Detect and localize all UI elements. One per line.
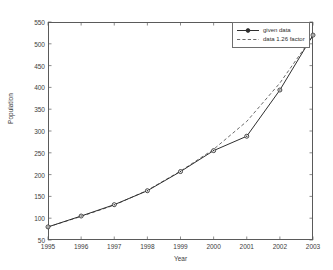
x-tick-label: 1997 bbox=[107, 243, 121, 250]
x-tick-label: 2000 bbox=[206, 243, 220, 250]
legend-label-factor: data 1.26 factor bbox=[263, 35, 305, 44]
x-tick-label: 2002 bbox=[273, 243, 287, 250]
y-tick-label: 400 bbox=[34, 84, 45, 91]
legend-label-given-data: given data bbox=[263, 26, 291, 35]
x-tick-label: 2003 bbox=[306, 243, 320, 250]
x-axis-tick-labels: 199519961997199819992000200120022003 bbox=[48, 243, 313, 255]
x-tick-label: 1999 bbox=[173, 243, 187, 250]
x-axis-title: Year bbox=[48, 255, 313, 262]
y-axis-title: Population bbox=[7, 64, 14, 154]
x-tick-label: 2001 bbox=[240, 243, 254, 250]
y-tick-label: 450 bbox=[34, 62, 45, 69]
x-tick-label: 1996 bbox=[74, 243, 88, 250]
legend-entry-factor: data 1.26 factor bbox=[236, 35, 305, 44]
y-tick-label: 300 bbox=[34, 128, 45, 135]
x-tick-label: 1995 bbox=[41, 243, 55, 250]
y-tick-label: 150 bbox=[34, 193, 45, 200]
y-tick-label: 500 bbox=[34, 40, 45, 47]
y-axis-tick-labels: 50100150200250300350400450500550 bbox=[18, 22, 45, 240]
y-tick-label: 250 bbox=[34, 149, 45, 156]
legend-line-sample-dashed bbox=[236, 35, 260, 44]
chart-legend: given data data 1.26 factor bbox=[232, 22, 310, 48]
legend-line-sample-solid bbox=[236, 26, 260, 35]
y-tick-label: 550 bbox=[34, 19, 45, 26]
axis-tick-marks bbox=[48, 22, 313, 240]
y-tick-label: 350 bbox=[34, 106, 45, 113]
legend-entry-given-data: given data bbox=[236, 26, 305, 35]
figure-canvas: 50100150200250300350400450500550 1995199… bbox=[0, 0, 333, 270]
y-tick-label: 100 bbox=[34, 215, 45, 222]
x-tick-label: 1998 bbox=[140, 243, 154, 250]
series-given-data bbox=[46, 33, 315, 229]
series-data-1-26-factor bbox=[48, 36, 313, 227]
y-tick-label: 200 bbox=[34, 171, 45, 178]
